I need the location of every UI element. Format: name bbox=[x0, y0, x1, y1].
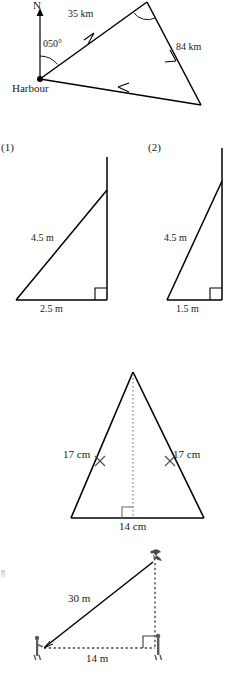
label-base-1: 2.5 m bbox=[40, 304, 63, 314]
figure-ladder-triangles: (1) 4.5 m 2.5 m (2) 4.5 m 1.5 m bbox=[0, 140, 236, 330]
equal-side-tick-marks bbox=[95, 456, 175, 466]
worksheet-page: N 050° 35 km 84 km Harbour (1) 4.5 m bbox=[0, 0, 236, 674]
ladder-triangle-1-shape bbox=[16, 157, 107, 300]
label-north: N bbox=[33, 0, 41, 11]
bearing-angle-arc bbox=[40, 56, 58, 65]
label-side-35km: 35 km bbox=[68, 9, 93, 19]
side-right bbox=[133, 372, 204, 518]
bearing-triangle-sides bbox=[40, 2, 201, 105]
page-edge-artifact bbox=[1, 570, 5, 578]
ladder-triangle-2-shape bbox=[167, 148, 222, 300]
person-observer-icon bbox=[34, 636, 43, 660]
label-hypotenuse-1: 4.5 m bbox=[31, 233, 54, 243]
label-right-side-17cm: 17 cm bbox=[173, 449, 200, 460]
figure-elevation-triangle: 30 m 14 m bbox=[0, 545, 236, 674]
label-side-84km: 84 km bbox=[176, 42, 201, 52]
ladder-1 bbox=[16, 190, 107, 300]
hypotenuse-line-of-sight bbox=[45, 562, 153, 647]
person-base-icon bbox=[155, 634, 162, 660]
figure-bearing-triangle: N 050° 35 km 84 km Harbour bbox=[0, 0, 236, 112]
arrow-marker-bc bbox=[165, 50, 176, 62]
side-far-to-harbour bbox=[40, 79, 201, 105]
arrow-marker-ca bbox=[118, 83, 129, 92]
label-bearing-angle: 050° bbox=[43, 39, 62, 49]
right-angle-marker-altitude bbox=[122, 507, 133, 518]
direction-arrow-markers bbox=[84, 33, 176, 92]
bird-icon bbox=[150, 549, 162, 561]
right-angle-marker-2 bbox=[210, 288, 222, 300]
bearing-triangle-svg bbox=[0, 0, 236, 112]
label-number-2: (2) bbox=[148, 142, 161, 153]
side-left bbox=[71, 372, 133, 518]
side-apex-to-far bbox=[147, 2, 201, 105]
label-hypotenuse-2: 4.5 m bbox=[164, 233, 187, 243]
apex-angle-arc bbox=[134, 13, 155, 20]
label-harbour: Harbour bbox=[12, 83, 49, 94]
figure-isosceles-triangle: 17 cm 17 cm 14 cm bbox=[0, 360, 236, 536]
right-angle-marker-1 bbox=[95, 288, 107, 300]
label-left-side-17cm: 17 cm bbox=[63, 449, 90, 460]
label-hypotenuse-30m: 30 m bbox=[68, 593, 90, 604]
label-number-1: (1) bbox=[1, 142, 14, 153]
elevation-triangle-svg bbox=[0, 545, 236, 674]
isosceles-triangle-svg bbox=[0, 360, 236, 536]
right-angle-marker-elevation bbox=[143, 636, 155, 648]
isosceles-triangle-shape bbox=[71, 372, 204, 518]
label-base-14m: 14 m bbox=[86, 653, 108, 664]
arrow-marker-ab bbox=[84, 33, 94, 44]
label-base-2: 1.5 m bbox=[176, 304, 199, 314]
label-base-14cm: 14 cm bbox=[119, 521, 146, 532]
